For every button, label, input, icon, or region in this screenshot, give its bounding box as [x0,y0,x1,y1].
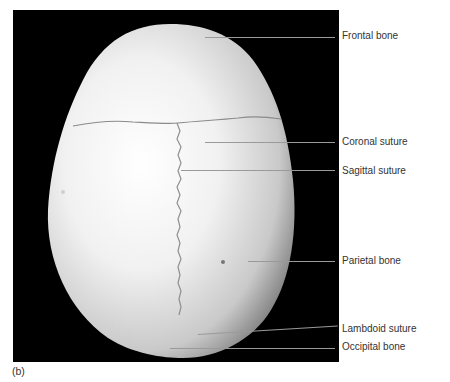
parietal-bone-leader [248,261,335,262]
frontal-bone-leader [205,37,335,38]
label-coronal-suture: Coronal suture [342,136,408,148]
skull-photograph [13,10,339,362]
panel-tag: (b) [12,365,25,377]
sagittal-suture-leader [181,170,335,171]
skull-illustration [13,10,339,362]
label-lambdoid-suture: Lambdoid suture [342,323,417,335]
occipital-bone-leader [170,348,335,349]
label-frontal-bone: Frontal bone [342,30,398,42]
skull-shape [48,24,295,358]
coronal-suture-leader [205,142,335,143]
label-occipital-bone: Occipital bone [342,341,405,353]
label-sagittal-suture: Sagittal suture [342,165,406,177]
label-parietal-bone: Parietal bone [342,255,401,267]
